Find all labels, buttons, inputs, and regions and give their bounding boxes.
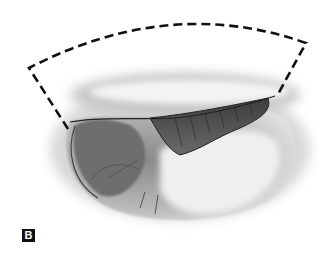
ear-illustration bbox=[0, 0, 329, 254]
panel-label: B bbox=[22, 229, 35, 242]
ear-drawing bbox=[0, 0, 329, 254]
